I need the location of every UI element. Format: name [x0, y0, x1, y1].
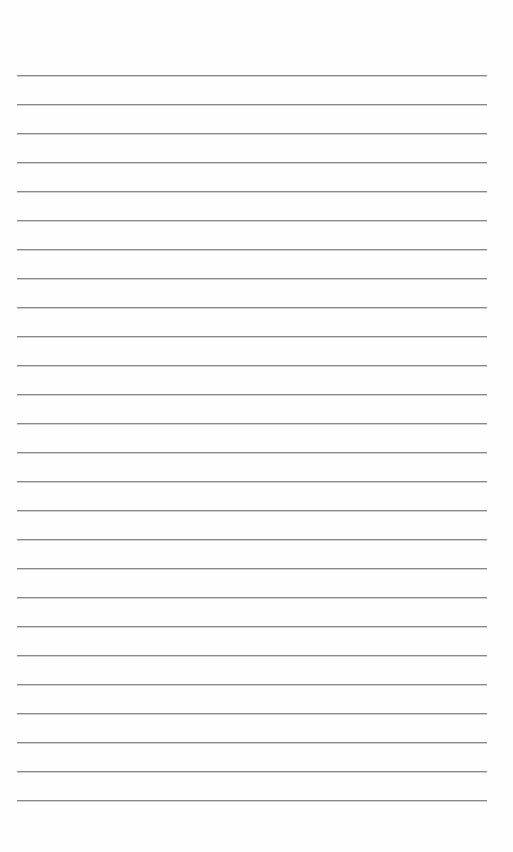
ruled-line	[17, 162, 487, 164]
ruled-line	[17, 75, 487, 77]
ruled-line	[17, 713, 487, 715]
ruled-line	[17, 568, 487, 570]
ruled-line	[17, 191, 487, 193]
ruled-line	[17, 684, 487, 686]
ruled-line	[17, 220, 487, 222]
ruled-line	[17, 539, 487, 541]
ruled-line	[17, 626, 487, 628]
ruled-line	[17, 249, 487, 251]
ruled-line	[17, 365, 487, 367]
ruled-line	[17, 771, 487, 773]
ruled-line	[17, 423, 487, 425]
ruled-line	[17, 394, 487, 396]
ruled-line	[17, 800, 487, 802]
ruled-line	[17, 104, 487, 106]
ruled-line	[17, 510, 487, 512]
ruled-line	[17, 307, 487, 309]
ruled-line	[17, 597, 487, 599]
lined-page	[0, 0, 513, 852]
ruled-line	[17, 133, 487, 135]
ruled-line	[17, 481, 487, 483]
ruled-line	[17, 452, 487, 454]
ruled-line	[17, 742, 487, 744]
ruled-line	[17, 655, 487, 657]
ruled-line	[17, 336, 487, 338]
ruled-line	[17, 278, 487, 280]
